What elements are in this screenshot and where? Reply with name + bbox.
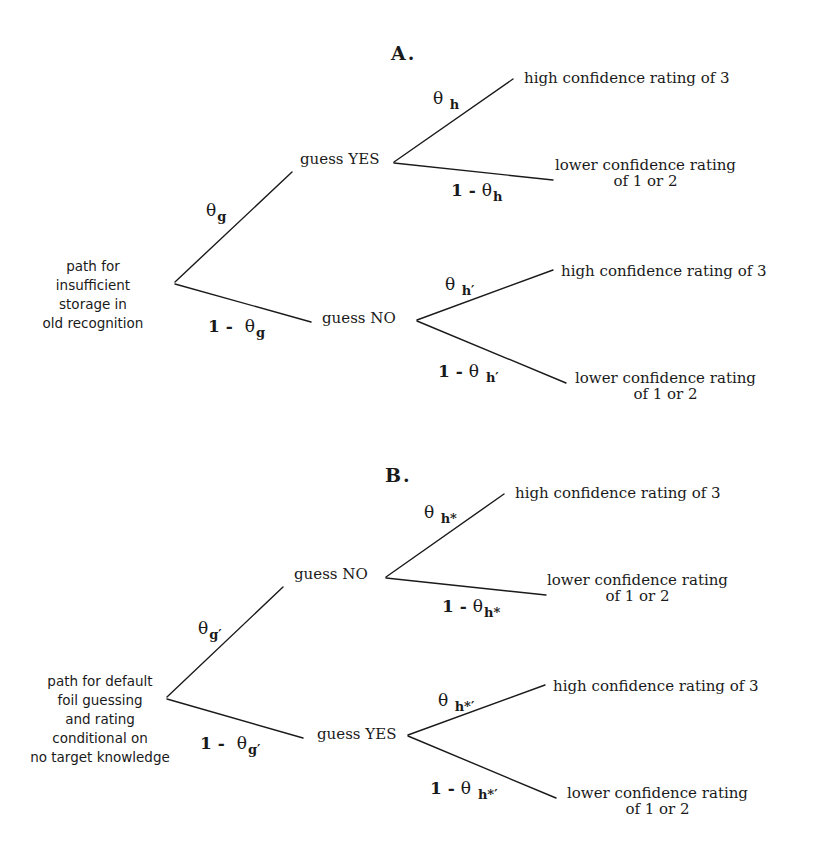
theta-symbol: θ	[424, 502, 434, 522]
panel-b-leaf-yes-high: high confidence rating of 3	[553, 678, 759, 694]
panel-b-prob-one-minus-theta-g-prime: 1 - θg′	[200, 733, 260, 757]
panel-a-node-guess-no: guess NO	[322, 309, 396, 327]
edge-a-root-to-guess-yes	[175, 172, 292, 282]
leaf-label-line: high confidence rating of 3	[524, 70, 730, 86]
param-prefix: 1 -	[200, 733, 231, 753]
param-prefix: 1 -	[438, 361, 469, 381]
panel-a-leaf-yes-low: lower confidence rating of 1 or 2	[555, 157, 736, 189]
root-label-line: conditional on	[30, 729, 170, 748]
leaf-label-line: lower confidence rating	[555, 157, 736, 173]
panel-a-root-label: path for insufficient storage in old rec…	[28, 257, 158, 333]
panel-b-node-guess-no: guess NO	[294, 565, 368, 583]
leaf-label-line: lower confidence rating	[547, 572, 728, 588]
panel-a-prob-one-minus-theta-h: 1 - θh	[451, 180, 502, 204]
param-prefix: 1 -	[451, 180, 482, 200]
param-prefix: 1 -	[430, 778, 461, 798]
param-subscript: h	[493, 189, 502, 204]
root-label-line: path for default	[30, 672, 170, 691]
param-subscript: h	[450, 97, 459, 112]
theta-symbol: θ	[433, 88, 443, 108]
theta-symbol: θ	[473, 596, 483, 616]
param-subscript: h*	[484, 605, 500, 620]
param-subscript: g	[217, 209, 226, 224]
param-subscript: h*′	[478, 787, 498, 802]
leaf-label-line: high confidence rating of 3	[515, 485, 721, 501]
panel-b-root-label: path for default foil guessing and ratin…	[30, 672, 170, 767]
panel-b-leaf-no-low: lower confidence rating of 1 or 2	[547, 572, 728, 604]
panel-b-title: B.	[385, 464, 412, 486]
panel-b-prob-theta-h-star-prime: θ h*′	[438, 690, 474, 714]
edge-a-yes-to-low	[394, 163, 553, 180]
root-label-line: storage in	[28, 295, 158, 314]
theta-symbol: θ	[469, 361, 479, 381]
leaf-label-line: lower confidence rating	[567, 785, 748, 801]
param-subscript: h*	[441, 511, 457, 526]
param-subscript: g′	[209, 627, 222, 642]
param-prefix: 1 -	[442, 596, 473, 616]
panel-a-leaf-yes-high: high confidence rating of 3	[524, 70, 730, 86]
theta-symbol: θ	[245, 316, 255, 336]
panel-b-prob-one-minus-theta-h-star: 1 - θh*	[442, 596, 500, 620]
panel-a-prob-theta-g: θg	[206, 200, 226, 224]
theta-symbol: θ	[198, 618, 208, 638]
panel-b-prob-theta-h-star: θ h*	[424, 502, 457, 526]
leaf-label-line: of 1 or 2	[547, 588, 728, 604]
panel-a-prob-theta-h-prime: θ h′	[445, 274, 475, 298]
root-label-line: old recognition	[28, 314, 158, 333]
param-subscript: h′	[486, 370, 499, 385]
leaf-label-line: of 1 or 2	[555, 173, 736, 189]
param-prefix: 1 -	[208, 316, 239, 336]
panel-b-leaf-no-high: high confidence rating of 3	[515, 485, 721, 501]
panel-a-leaf-no-high: high confidence rating of 3	[561, 263, 767, 279]
leaf-label-line: lower confidence rating	[575, 370, 756, 386]
leaf-label-line: high confidence rating of 3	[561, 263, 767, 279]
panel-b-leaf-yes-low: lower confidence rating of 1 or 2	[567, 785, 748, 817]
panel-a-leaf-no-low: lower confidence rating of 1 or 2	[575, 370, 756, 402]
root-label-line: and rating	[30, 710, 170, 729]
param-subscript: g	[256, 325, 265, 340]
theta-symbol: θ	[206, 200, 216, 220]
theta-symbol: θ	[438, 690, 448, 710]
leaf-label-line: of 1 or 2	[567, 801, 748, 817]
panel-a-prob-one-minus-theta-g: 1 - θg	[208, 316, 265, 340]
theta-symbol: θ	[461, 778, 471, 798]
edge-b-yes-to-high	[408, 685, 545, 735]
processing-tree-figure: A. path for insufficient storage in old …	[0, 0, 821, 846]
panel-a-prob-one-minus-theta-h-prime: 1 - θ h′	[438, 361, 499, 385]
panel-a-title: A.	[391, 42, 416, 64]
theta-symbol: θ	[482, 180, 492, 200]
root-label-line: insufficient	[28, 276, 158, 295]
panel-b-prob-one-minus-theta-h-star-prime: 1 - θ h*′	[430, 778, 498, 802]
panel-b-prob-theta-g-prime: θg′	[198, 618, 222, 642]
theta-symbol: θ	[237, 733, 247, 753]
root-label-line: path for	[28, 257, 158, 276]
edge-b-root-to-guess-no	[167, 587, 283, 697]
panel-a-prob-theta-h: θ h	[433, 88, 459, 112]
leaf-label-line: high confidence rating of 3	[553, 678, 759, 694]
leaf-label-line: of 1 or 2	[575, 386, 756, 402]
edge-a-no-to-high	[417, 270, 553, 320]
theta-symbol: θ	[445, 274, 455, 294]
param-subscript: h′	[462, 283, 475, 298]
root-label-line: no target knowledge	[30, 748, 170, 767]
edge-b-no-to-low	[386, 578, 546, 595]
param-subscript: h*′	[455, 699, 475, 714]
panel-b-node-guess-yes: guess YES	[317, 725, 396, 743]
param-subscript: g′	[248, 742, 261, 757]
root-label-line: foil guessing	[30, 691, 170, 710]
panel-a-node-guess-yes: guess YES	[300, 150, 379, 168]
